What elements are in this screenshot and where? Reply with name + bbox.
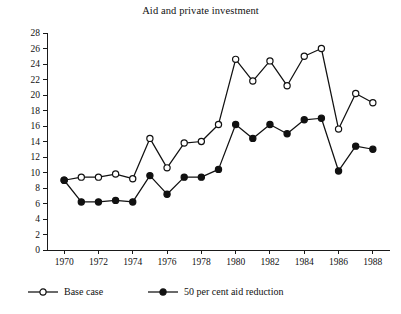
data-point-marker <box>233 56 239 62</box>
data-point-marker <box>318 115 324 121</box>
y-tick-label: 0 <box>35 245 40 255</box>
y-tick-label: 18 <box>31 106 41 116</box>
y-axis-ticks: 0246810121416182022242628 <box>31 28 48 255</box>
x-tick-label: 1986 <box>329 257 348 267</box>
x-axis: 1970197219741976197819801982198419861988 <box>47 250 390 267</box>
filled-circle-marker-icon <box>148 287 178 297</box>
y-tick-label: 8 <box>35 183 40 193</box>
y-tick-label: 22 <box>31 75 41 85</box>
data-point-marker <box>353 90 359 96</box>
data-point-marker <box>301 53 307 59</box>
data-point-marker <box>113 171 119 177</box>
data-point-marker <box>233 121 239 127</box>
data-point-marker <box>335 168 341 174</box>
series-line <box>64 49 373 181</box>
data-point-marker <box>284 83 290 89</box>
data-series <box>61 45 376 183</box>
y-tick-label: 20 <box>31 90 41 100</box>
legend-label-base-case: Base case <box>64 286 103 297</box>
data-point-marker <box>78 199 84 205</box>
data-point-marker <box>61 177 67 183</box>
data-point-marker <box>130 199 136 205</box>
data-point-marker <box>147 135 153 141</box>
chart-figure: Aid and private investment 0246810121416… <box>0 0 401 314</box>
y-tick-label: 2 <box>35 230 40 240</box>
data-point-marker <box>370 146 376 152</box>
data-point-marker <box>301 117 307 123</box>
data-point-marker <box>267 121 273 127</box>
data-point-marker <box>215 166 221 172</box>
legend-label-aid-reduction: 50 per cent aid reduction <box>184 286 283 297</box>
x-tick-label: 1972 <box>89 257 108 267</box>
data-point-marker <box>147 173 153 179</box>
y-tick-label: 14 <box>31 137 41 147</box>
y-axis: 0246810121416182022242628 <box>31 28 48 255</box>
data-point-marker <box>250 135 256 141</box>
legend-item-aid-reduction: 50 per cent aid reduction <box>148 286 283 297</box>
data-point-marker <box>78 174 84 180</box>
legend-item-base-case: Base case <box>28 286 103 297</box>
y-tick-label: 4 <box>35 214 40 224</box>
y-tick-label: 12 <box>31 152 41 162</box>
data-point-marker <box>164 165 170 171</box>
y-tick-label: 10 <box>31 168 41 178</box>
data-point-marker <box>181 174 187 180</box>
data-point-marker <box>198 138 204 144</box>
x-tick-label: 1974 <box>123 257 142 267</box>
x-axis-ticks: 1970197219741976197819801982198419861988 <box>55 250 383 267</box>
data-point-marker <box>181 140 187 146</box>
line-chart-plot: 0246810121416182022242628 19701972197419… <box>0 0 401 314</box>
data-point-marker <box>198 174 204 180</box>
series-line <box>64 118 373 202</box>
data-point-marker <box>318 45 324 51</box>
data-point-marker <box>250 78 256 84</box>
data-point-marker <box>130 176 136 182</box>
y-tick-label: 26 <box>31 44 41 54</box>
data-point-marker <box>215 121 221 127</box>
data-point-marker <box>113 197 119 203</box>
data-point-marker <box>284 131 290 137</box>
x-tick-label: 1970 <box>55 257 74 267</box>
open-circle-marker-icon <box>28 287 58 297</box>
chart-legend: Base case 50 per cent aid reduction <box>0 286 401 310</box>
data-point-marker <box>335 126 341 132</box>
data-point-marker <box>370 100 376 106</box>
data-point-marker <box>95 174 101 180</box>
data-series <box>61 115 376 205</box>
data-series-layer <box>61 45 376 205</box>
data-point-marker <box>164 191 170 197</box>
x-tick-label: 1982 <box>260 257 279 267</box>
x-tick-label: 1976 <box>158 257 177 267</box>
y-tick-label: 24 <box>31 59 41 69</box>
x-tick-label: 1980 <box>226 257 245 267</box>
x-tick-label: 1984 <box>295 257 314 267</box>
data-point-marker <box>95 199 101 205</box>
data-point-marker <box>353 143 359 149</box>
y-tick-label: 6 <box>35 199 40 209</box>
x-tick-label: 1988 <box>363 257 382 267</box>
y-tick-label: 16 <box>31 121 41 131</box>
y-tick-label: 28 <box>31 28 41 38</box>
x-tick-label: 1978 <box>192 257 211 267</box>
data-point-marker <box>267 58 273 64</box>
